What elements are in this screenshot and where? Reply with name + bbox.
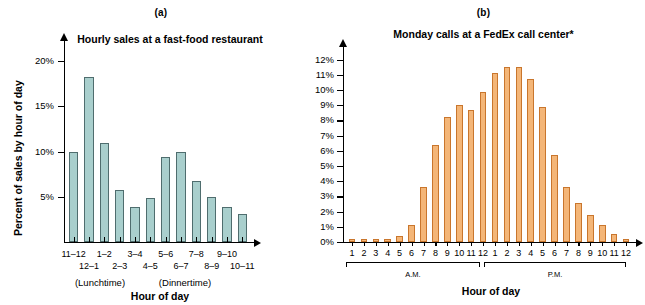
panel-b-y-tick	[337, 196, 344, 197]
panel-b-x-tick-label: 12	[617, 248, 635, 258]
panel-b-x-tick	[459, 242, 460, 246]
panel-a-x-tick-label: 9–10	[205, 249, 249, 259]
panel-b-x-tick	[578, 242, 579, 246]
panel-a-bar	[161, 157, 171, 242]
panel-a-x-tick	[120, 237, 121, 242]
panel-a-x-tick	[135, 237, 136, 242]
panel-b-pm-label: P.M.	[484, 270, 626, 279]
panel-b-y-tick-label: 8%	[292, 114, 334, 125]
panel-a-y-tick	[58, 106, 65, 107]
panel-a-bar	[84, 77, 94, 242]
panel-a-lunchtime-note: (Lunchtime)	[55, 277, 145, 288]
panel-b-y-tick-label: 4%	[292, 175, 334, 186]
panel-a-y-tick	[58, 61, 65, 62]
panel-a-x-tick	[166, 237, 167, 242]
panel-a: (a) Hourly sales at a fast-food restaura…	[0, 0, 322, 305]
panel-b-y-tick-label: 1%	[292, 221, 334, 232]
panel-a-bar	[176, 152, 186, 242]
panel-a-x-axis	[64, 242, 256, 243]
panel-a-x-axis-title: Hour of day	[64, 290, 256, 302]
panel-b-bar	[432, 145, 439, 242]
panel-b-x-tick	[447, 242, 448, 246]
dual-histogram-figure: (a) Hourly sales at a fast-food restaura…	[0, 0, 645, 305]
panel-a-y-tick-label: 10%	[10, 146, 54, 157]
panel-a-y-tick-label: 20%	[10, 55, 54, 66]
panel-b-bar	[539, 107, 546, 242]
panel-b-y-tick	[337, 151, 344, 152]
panel-b-x-tick	[614, 242, 615, 246]
panel-b-bar	[468, 110, 475, 242]
panel-b-x-tick	[471, 242, 472, 246]
panel-a-bar	[100, 143, 110, 242]
panel-b-x-tick	[590, 242, 591, 246]
panel-a-x-tick	[196, 237, 197, 242]
panel-a-x-axis-arrow	[254, 239, 261, 247]
panel-b-x-tick	[352, 242, 353, 246]
panel-b-x-tick	[400, 242, 401, 246]
panel-a-x-tick	[212, 237, 213, 242]
panel-a-x-tick	[89, 237, 90, 242]
panel-b-y-tick	[337, 75, 344, 76]
panel-a-x-tick	[104, 237, 105, 242]
panel-b-bar	[551, 155, 558, 242]
panel-b-y-tick	[337, 120, 344, 121]
panel-b-x-tick	[388, 242, 389, 246]
panel-a-letter: (a)	[0, 7, 322, 18]
panel-b-y-tick	[337, 242, 344, 243]
panel-a-dinnertime-note: (Dinnertime)	[140, 277, 230, 288]
panel-b-bar	[563, 187, 570, 242]
panel-b-x-tick	[602, 242, 603, 246]
panel-b-y-tick-label: 7%	[292, 130, 334, 141]
panel-b-bar	[444, 117, 451, 242]
panel-b-title: Monday calls at a FedEx call center*	[322, 28, 645, 40]
panel-b-bar	[504, 67, 511, 242]
panel-b: (b) Monday calls at a FedEx call center*…	[322, 0, 645, 305]
panel-a-bar	[115, 190, 125, 243]
panel-b-y-tick-label: 10%	[292, 84, 334, 95]
panel-a-title: Hourly sales at a fast-food restaurant	[0, 33, 322, 45]
panel-b-y-axis-arrow	[339, 39, 347, 47]
panel-a-bar	[207, 197, 217, 242]
panel-a-y-axis-arrow	[60, 33, 68, 41]
panel-a-bar	[192, 181, 202, 243]
panel-b-x-tick	[555, 242, 556, 246]
panel-b-x-tick	[543, 242, 544, 246]
panel-b-x-tick	[483, 242, 484, 246]
panel-b-y-tick-label: 2%	[292, 206, 334, 217]
panel-a-bar	[69, 152, 79, 243]
panel-b-bar	[516, 67, 523, 242]
panel-b-y-tick-label: 12%	[292, 54, 334, 65]
panel-a-x-tick	[150, 237, 151, 242]
panel-b-bar	[587, 215, 594, 242]
panel-b-x-tick	[567, 242, 568, 246]
panel-b-y-tick-label: 0%	[292, 236, 334, 247]
panel-b-y-tick	[337, 105, 344, 106]
panel-b-x-tick	[531, 242, 532, 246]
panel-b-x-tick	[412, 242, 413, 246]
panel-b-x-tick	[364, 242, 365, 246]
panel-b-bar	[527, 79, 534, 242]
panel-a-y-tick	[58, 197, 65, 198]
panel-a-x-tick	[242, 237, 243, 242]
panel-a-x-tick	[181, 237, 182, 242]
panel-b-y-tick-label: 9%	[292, 99, 334, 110]
panel-b-x-axis-title: Hour of day	[343, 285, 639, 297]
panel-b-x-tick	[519, 242, 520, 246]
panel-b-x-tick	[495, 242, 496, 246]
panel-a-y-tick	[58, 152, 65, 153]
panel-b-y-tick	[337, 90, 344, 91]
panel-b-y-tick-label: 11%	[292, 69, 334, 80]
panel-b-bar	[599, 225, 606, 242]
panel-b-y-tick	[337, 227, 344, 228]
panel-b-bar	[420, 187, 427, 242]
panel-b-bar	[611, 234, 618, 242]
panel-a-x-tick	[227, 237, 228, 242]
panel-a-y-tick-label: 15%	[10, 100, 54, 111]
panel-b-bar	[480, 92, 487, 243]
panel-b-y-tick-label: 3%	[292, 190, 334, 201]
panel-b-x-tick	[376, 242, 377, 246]
panel-a-x-tick-label: 10–11	[220, 261, 264, 271]
panel-b-x-axis-arrow	[636, 239, 643, 247]
panel-b-y-tick	[337, 136, 344, 137]
panel-a-x-tick	[74, 237, 75, 242]
